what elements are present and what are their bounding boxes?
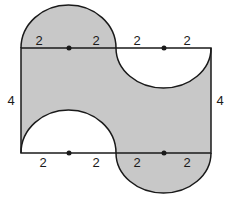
label-bottom-right-2: 2	[183, 155, 190, 170]
bottom-left-center-dot	[67, 151, 72, 156]
top-left-center-dot	[67, 46, 72, 51]
label-top-right-2: 2	[183, 33, 190, 48]
top-right-center-dot	[162, 46, 167, 51]
label-bottom-left-1: 2	[39, 155, 46, 170]
label-right-side: 4	[216, 93, 223, 108]
label-top-left-2: 2	[92, 33, 99, 48]
label-top-left-1: 2	[35, 33, 42, 48]
label-top-right-1: 2	[133, 33, 140, 48]
label-left-side: 4	[7, 93, 14, 108]
label-bottom-left-2: 2	[92, 155, 99, 170]
label-bottom-right-1: 2	[133, 155, 140, 170]
shaded-region-diagram: 2 2 2 2 2 2 2 2 4 4	[0, 0, 229, 200]
bottom-right-center-dot	[162, 151, 167, 156]
